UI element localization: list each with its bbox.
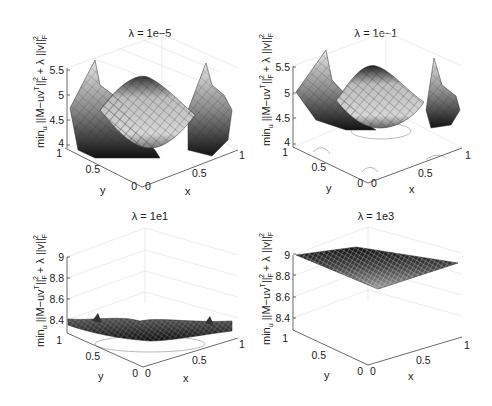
svg-text:minu ||M−uvT||F2 + λ ||v||F2: minu ||M−uvT||F2 + λ ||v||F2 [32,234,48,347]
y-tick: 0.5 [85,163,100,175]
z-axis-label: minu ||M−uvT||F2 + λ ||v||F2 [258,33,274,146]
x-tick: 1 [239,338,245,350]
y-tick: 0 [357,177,363,189]
subplot-lambda-1e-1: λ = 1e−1 5.5 5 4.5 4 1 0.5 0 0 0.5 1 y x… [246,0,492,203]
z-tick: 9 [284,249,290,261]
x-tick: 1 [239,149,245,161]
surface-plot [70,60,232,158]
x-axis-label: x [185,185,191,197]
z-tick: 4.5 [49,114,64,126]
y-tick: 0.5 [311,349,326,361]
z-tick: 8.6 [49,293,64,305]
svg-text:minu ||M−uvT||F2 + λ ||v||F2: minu ||M−uvT||F2 + λ ||v||F2 [258,33,274,146]
z-axis-label: minu ||M−uvT||F2 + λ ||v||F2 [32,35,48,148]
z-axis-label: minu ||M−uvT||F2 + λ ||v||F2 [258,232,274,345]
y-tick: 0 [131,180,137,192]
subplot-title: λ = 1e−5 [129,27,172,39]
y-axis-label: y [324,369,330,381]
y-axis-label: y [98,370,104,382]
z-tick: 9 [58,251,64,263]
z-tick: 8.8 [275,270,290,282]
subplot-lambda-1e1: λ = 1e1 9 8.8 8.6 8.4 1 0.5 0 0 0.5 1 y … [0,203,246,406]
svg-text:minu ||M−uvT||F2 + λ ||v||F2: minu ||M−uvT||F2 + λ ||v||F2 [258,232,274,345]
z-tick: 4.5 [275,112,290,124]
x-axis-label: x [409,183,415,195]
x-tick: 0 [145,180,151,192]
z-tick: 8.6 [275,291,290,303]
z-tick: 5.5 [49,64,64,76]
x-axis-label: x [183,372,189,384]
subplot-lambda-1e-5: λ = 1e−5 5.5 5 4.5 4 1 0.5 0 0 0.5 1 y x… [0,0,246,203]
z-tick: 8.4 [275,312,290,324]
y-tick: 1 [282,146,288,158]
subplot-lambda-1e3: λ = 1e3 9 8.8 8.6 8.4 1 0.5 0 0 0.5 1 y … [246,203,492,406]
subplot-title: λ = 1e1 [132,210,168,222]
y-tick: 0.5 [85,350,100,362]
x-tick: 0.5 [192,354,207,366]
y-tick: 0 [357,365,363,377]
x-tick: 0 [145,367,151,379]
x-tick: 0.5 [418,167,433,179]
y-tick: 0 [132,367,138,379]
x-tick: 0 [370,365,376,377]
subplot-title: λ = 1e−1 [355,27,398,39]
surface-plot [296,50,460,130]
y-tick: 1 [56,147,62,159]
z-tick: 5 [58,89,64,101]
z-tick: 8.8 [49,272,64,284]
x-axis-label: x [408,370,414,382]
z-tick: 5 [284,87,290,99]
x-tick: 0 [371,177,377,189]
x-tick: 1 [464,339,470,351]
x-tick: 0.5 [192,167,207,179]
y-axis-label: y [326,182,332,194]
svg-text:minu ||M−uvT||F2 + λ ||v||F2: minu ||M−uvT||F2 + λ ||v||F2 [32,35,48,148]
y-tick: 0.5 [311,161,326,173]
y-tick: 1 [56,334,62,346]
y-tick: 1 [282,332,288,344]
z-tick: 8.4 [49,314,64,326]
x-tick: 1 [465,149,471,161]
x-tick: 0.5 [416,354,431,366]
surface-plot [296,247,458,289]
z-axis-label: minu ||M−uvT||F2 + λ ||v||F2 [32,234,48,347]
subplot-title: λ = 1e3 [358,210,394,222]
surface-plot [68,313,232,341]
y-axis-label: y [100,184,106,196]
z-tick: 5.5 [275,61,290,73]
